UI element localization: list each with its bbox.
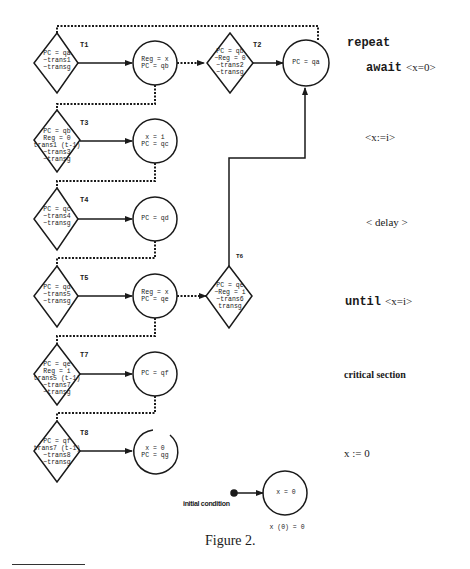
T3-conditions: PC = qb Reg = 0 trans1 (t-1) ~trans3 ~tr… bbox=[22, 128, 92, 163]
reset-statement: x := 0 bbox=[344, 447, 370, 459]
delay-statement: < delay > bbox=[366, 216, 408, 228]
T4-conditions: PC = qc ~trans4 ~transg bbox=[34, 206, 80, 227]
state-qc-label: x = i PC = qc bbox=[132, 134, 178, 148]
state-qe-label: Reg = x PC = qe bbox=[132, 289, 178, 303]
repeat-keyword: repeat bbox=[347, 36, 390, 50]
state-qg-label: x = 0 PC = qg bbox=[132, 445, 178, 459]
T1-conditions: PC = qa ~trans1 ~transg bbox=[34, 50, 80, 71]
svg-text:T6: T6 bbox=[236, 253, 244, 260]
state-qf-label: PC = qf bbox=[132, 370, 178, 377]
state-qb-label: Reg = x PC = qb bbox=[132, 56, 178, 70]
svg-text:T7: T7 bbox=[80, 351, 88, 359]
figure-caption: Figure 2. bbox=[205, 533, 256, 549]
critical-section-label: critical section bbox=[344, 369, 406, 380]
T7-conditions: PC = qe Reg = i trans5 (t-1) ~trans7 ~tr… bbox=[22, 361, 92, 396]
svg-text:T1: T1 bbox=[80, 41, 88, 49]
T2-conditions: PC = qb ~Reg = 0 ~trans2 ~transg bbox=[205, 48, 255, 76]
svg-text:T3: T3 bbox=[80, 119, 88, 127]
svg-text:T4: T4 bbox=[80, 196, 88, 204]
state-qa-label: PC = qa bbox=[283, 59, 329, 66]
assign-statement: <x:=i> bbox=[365, 131, 395, 143]
initial-condition-label: initial condition bbox=[183, 500, 230, 507]
T8-conditions: PC = qf trans7 (t-1) ~trans8 ~transg bbox=[22, 438, 92, 466]
initial-note: x (0) = 0 bbox=[262, 524, 312, 531]
T6-to-qa-connector bbox=[229, 88, 305, 266]
T6-conditions: PC = qe ~Reg = i ~trans6 transg bbox=[205, 282, 255, 310]
svg-text:T8: T8 bbox=[80, 429, 88, 437]
state-qd-label: PC = qd bbox=[132, 215, 178, 222]
initial-dot-icon bbox=[231, 490, 237, 496]
footnote-rule bbox=[12, 564, 85, 565]
loop-back-connector bbox=[57, 26, 318, 40]
await-statement: await <x=0> bbox=[366, 57, 436, 75]
initial-state-label: x = 0 bbox=[263, 489, 309, 496]
until-statement: until <x=i> bbox=[345, 291, 412, 309]
svg-text:T5: T5 bbox=[80, 274, 88, 282]
T5-conditions: PC = qd ~trans5 ~transg bbox=[34, 284, 80, 305]
